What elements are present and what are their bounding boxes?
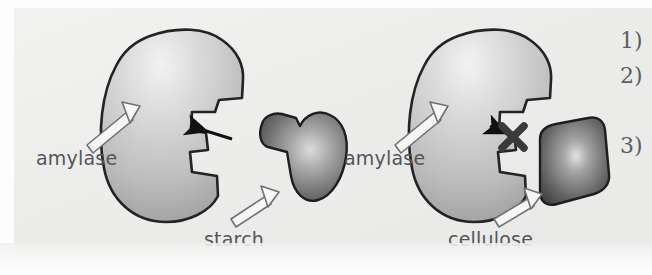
list-marker-2: 2) — [620, 63, 643, 88]
enzyme-specificity-figure: amylase starch amylase cellulose 1) 2) 3… — [0, 0, 652, 275]
panel-cellulose-no-fit — [395, 30, 609, 227]
list-marker-3: 3) — [620, 133, 643, 158]
paper-bottom-fade — [0, 243, 652, 275]
label-amylase-left: amylase — [36, 147, 117, 169]
starch-substrate-shape — [260, 113, 347, 201]
panel-starch-fits — [87, 30, 347, 227]
list-marker-1: 1) — [620, 28, 643, 53]
starch-pointer-arrow — [231, 186, 279, 227]
diagram-canvas — [0, 0, 652, 275]
label-amylase-right: amylase — [344, 147, 425, 169]
cellulose-substrate-shape — [540, 118, 609, 205]
